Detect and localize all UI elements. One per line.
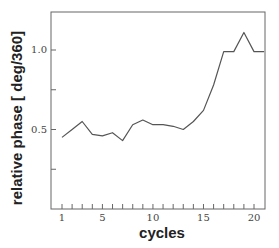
x-tick-label: 20 (248, 212, 261, 223)
y-axis-title: relative phase [ deg/360] (8, 31, 25, 205)
y-axis-ticks (51, 50, 56, 169)
x-tick-label: 15 (197, 212, 210, 223)
x-axis-tick-labels: 15101520 (59, 212, 261, 223)
line-chart: 15101520 0.51.0 cycles relative phase [ … (0, 0, 279, 248)
x-axis-ticks (62, 204, 254, 209)
x-tick-label: 5 (99, 212, 105, 223)
y-tick-label: 0.5 (31, 124, 47, 135)
x-axis-title: cycles (139, 224, 185, 241)
plot-frame (51, 12, 265, 209)
x-tick-label: 10 (147, 212, 160, 223)
y-tick-label: 1.0 (31, 44, 47, 55)
x-tick-label: 1 (59, 212, 65, 223)
data-line (62, 33, 264, 141)
y-axis-tick-labels: 0.51.0 (31, 44, 47, 135)
